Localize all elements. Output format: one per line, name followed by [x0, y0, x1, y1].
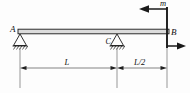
dim-Lhalf-arrowhead-right	[161, 66, 168, 70]
beam-member	[18, 29, 169, 34]
label-joint-b: B	[171, 27, 177, 37]
label-support-a: A	[9, 24, 16, 34]
moment-arrow-head	[139, 5, 149, 13]
reaction-arrow-head	[177, 43, 186, 50]
beam-body	[18, 29, 169, 34]
beam-diagram-canvas: A C B m L L/2	[0, 0, 190, 93]
dim-L-arrowhead-left	[20, 66, 27, 70]
label-support-c: C	[106, 37, 112, 46]
support-a-triangle	[14, 34, 27, 46]
support-a	[13, 34, 28, 50]
beam-diagram: A C B m L L/2	[0, 0, 190, 93]
support-c-hatching	[111, 46, 125, 50]
dim-L-arrowhead-right	[111, 66, 118, 70]
support-c	[110, 34, 125, 50]
label-span-overhang: L/2	[133, 57, 146, 67]
label-span-main: L	[64, 57, 70, 67]
dim-Lhalf-arrowhead-left	[117, 66, 124, 70]
label-moment: m	[160, 0, 166, 8]
support-c-triangle	[111, 34, 124, 46]
reaction-load-arrow	[167, 43, 186, 50]
support-a-hatching	[14, 46, 28, 50]
